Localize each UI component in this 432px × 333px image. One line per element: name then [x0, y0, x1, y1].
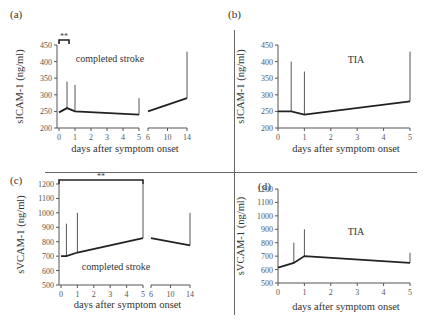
x-tick-label: 5 — [408, 288, 412, 297]
x-tick-label: 4 — [382, 133, 386, 142]
x-tick-label: 3 — [355, 288, 359, 297]
x-tick-label: 2 — [329, 288, 333, 297]
y-tick-label: 200 — [40, 124, 52, 133]
data-line — [151, 238, 190, 245]
x-tick-label: 1 — [75, 290, 79, 299]
y-tick-label: 450 — [261, 41, 273, 50]
y-tick-label: 200 — [261, 124, 273, 133]
y-tick-label: 400 — [261, 58, 273, 67]
y-tick-label: 500 — [42, 281, 54, 290]
y-axis-label: sVCAM-1 (ng/ml) — [15, 195, 27, 274]
x-tick-label: 10 — [167, 290, 175, 299]
y-tick-label: 700 — [261, 252, 273, 261]
panel-a: (a)200250300350400450sICAM-1 (ng/ml)0123… — [10, 8, 191, 154]
x-tick-label: 6 — [149, 290, 153, 299]
panel-d: (d)500600700800900100011001200sVCAM-1 (n… — [235, 180, 412, 312]
data-line — [61, 238, 143, 256]
x-tick-label: 3 — [105, 133, 109, 142]
y-tick-label: 1100 — [38, 194, 54, 203]
data-line — [59, 108, 139, 115]
x-tick-label: 0 — [57, 133, 61, 142]
panel-label: (b) — [228, 8, 241, 21]
y-tick-label: 1000 — [38, 209, 54, 218]
x-tick-label: 10 — [164, 133, 172, 142]
x-axis-label: days after symptom onset — [292, 301, 400, 312]
panel-c: (c)500600700800900100011001200sVCAM-1 (n… — [10, 172, 194, 310]
x-tick-label: 3 — [108, 290, 112, 299]
x-tick-label: 2 — [92, 290, 96, 299]
panel-label: (a) — [10, 8, 23, 21]
x-tick-label: 5 — [141, 290, 145, 299]
x-tick-label: 2 — [329, 133, 333, 142]
y-tick-label: 450 — [40, 41, 52, 50]
x-axis-label: days after symptom onset — [292, 143, 400, 154]
x-tick-label: 14 — [183, 133, 191, 142]
x-tick-label: 5 — [408, 133, 412, 142]
x-axis-label: days after symptom onset — [71, 143, 179, 154]
y-tick-label: 800 — [42, 238, 54, 247]
y-tick-label: 250 — [40, 107, 52, 116]
y-tick-label: 300 — [261, 91, 273, 100]
x-tick-label: 6 — [146, 133, 150, 142]
figure-canvas: (a)200250300350400450sICAM-1 (ng/ml)0123… — [0, 0, 432, 333]
y-tick-label: 600 — [42, 267, 54, 276]
data-line — [278, 101, 410, 114]
horizontal-divider — [45, 172, 417, 173]
y-axis-label: sVCAM-1 (ng/ml) — [235, 196, 247, 275]
y-tick-label: 350 — [261, 74, 273, 83]
panel-label: (c) — [10, 174, 23, 187]
significance-marker: ** — [97, 172, 105, 181]
y-tick-label: 1200 — [38, 180, 54, 189]
y-tick-label: 250 — [261, 107, 273, 116]
y-tick-label: 400 — [40, 58, 52, 67]
x-tick-label: 5 — [137, 133, 141, 142]
y-tick-label: 900 — [42, 223, 54, 232]
x-tick-label: 0 — [59, 290, 63, 299]
y-axis-label: sICAM-1 (ng/ml) — [14, 49, 26, 124]
x-axis-label: days after symptom onset — [74, 299, 182, 310]
x-tick-label: 3 — [355, 133, 359, 142]
y-tick-label: 1000 — [257, 212, 273, 221]
y-tick-label: 800 — [261, 239, 273, 248]
x-tick-label: 4 — [125, 290, 129, 299]
y-tick-label: 500 — [261, 279, 273, 288]
panel-b: (b)200250300350400450sICAM-1 (ng/ml)0123… — [228, 8, 412, 154]
x-tick-label: 2 — [89, 133, 93, 142]
significance-marker: ** — [60, 32, 68, 41]
y-tick-label: 1200 — [257, 185, 273, 194]
y-tick-label: 1100 — [257, 198, 273, 207]
x-tick-label: 14 — [186, 290, 194, 299]
x-tick-label: 0 — [276, 133, 280, 142]
group-annotation: completed stroke — [76, 53, 145, 64]
x-tick-label: 1 — [73, 133, 77, 142]
y-tick-label: 700 — [42, 252, 54, 261]
y-tick-label: 300 — [40, 91, 52, 100]
group-annotation: completed stroke — [82, 261, 151, 272]
x-tick-label: 1 — [302, 133, 306, 142]
y-axis-label: sICAM-1 (ng/ml) — [235, 49, 247, 124]
y-tick-label: 900 — [261, 225, 273, 234]
data-line — [278, 256, 410, 268]
group-annotation: TIA — [348, 54, 365, 65]
x-tick-label: 4 — [382, 288, 386, 297]
group-annotation: TIA — [348, 226, 365, 237]
y-tick-label: 350 — [40, 74, 52, 83]
data-line — [148, 98, 187, 111]
x-tick-label: 4 — [121, 133, 125, 142]
x-tick-label: 0 — [276, 288, 280, 297]
y-tick-label: 600 — [261, 266, 273, 275]
x-tick-label: 1 — [302, 288, 306, 297]
